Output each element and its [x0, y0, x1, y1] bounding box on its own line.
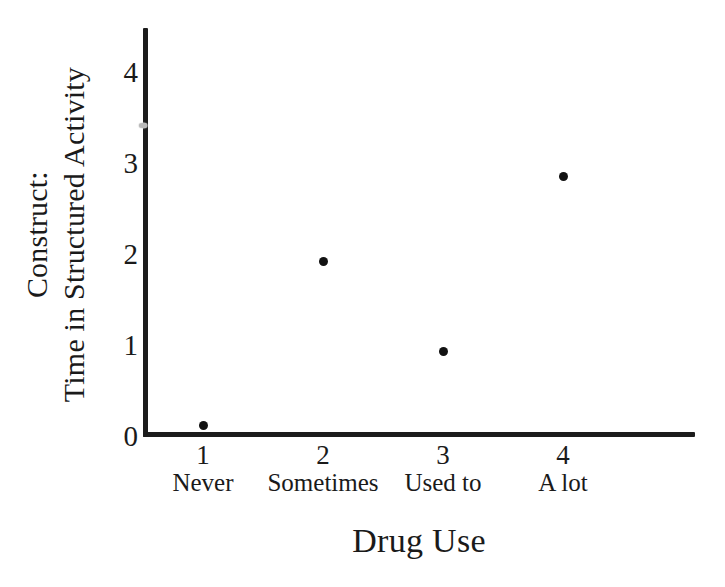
y-axis-tick-label: 4	[104, 58, 138, 87]
x-axis-title: Drug Use	[143, 522, 695, 560]
x-axis-tick-labels: 1Never2Sometimes3Used to4A lot	[143, 441, 695, 503]
x-axis-line	[143, 432, 695, 437]
x-axis-category-label: Used to	[404, 469, 481, 497]
x-axis-tick-group: 3Used to	[404, 441, 481, 497]
y-axis-title-line-1: Construct:	[19, 67, 56, 402]
x-axis-tick-number: 4	[538, 441, 587, 469]
x-axis-tick-group: 2Sometimes	[267, 441, 378, 497]
y-axis-line	[143, 28, 148, 437]
point-faint-stray	[139, 123, 147, 128]
x-axis-tick-number: 1	[172, 441, 233, 469]
y-axis-title: Construct: Time in Structured Activity	[0, 0, 112, 470]
x-axis-category-label: Sometimes	[267, 469, 378, 497]
x-axis-category-label: A lot	[538, 469, 587, 497]
x-axis-category-label: Never	[172, 469, 233, 497]
point-never	[199, 421, 208, 430]
y-axis-tick-label: 3	[104, 149, 138, 178]
point-sometimes	[319, 257, 328, 266]
x-axis-tick-group: 1Never	[172, 441, 233, 497]
x-axis-tick-number: 2	[267, 441, 378, 469]
y-axis-title-line-2: Time in Structured Activity	[56, 67, 93, 402]
x-axis-tick-group: 4A lot	[538, 441, 587, 497]
point-used-to	[439, 347, 448, 356]
y-axis-tick-labels: 01234	[100, 0, 138, 587]
y-axis-tick-label: 0	[104, 422, 138, 451]
y-axis-tick-label: 2	[104, 240, 138, 269]
point-a-lot	[559, 172, 568, 181]
x-axis-tick-number: 3	[404, 441, 481, 469]
scatter-plot-figure: Construct: Time in Structured Activity 0…	[0, 0, 725, 587]
y-axis-tick-label: 1	[104, 331, 138, 360]
plot-area	[143, 28, 695, 437]
